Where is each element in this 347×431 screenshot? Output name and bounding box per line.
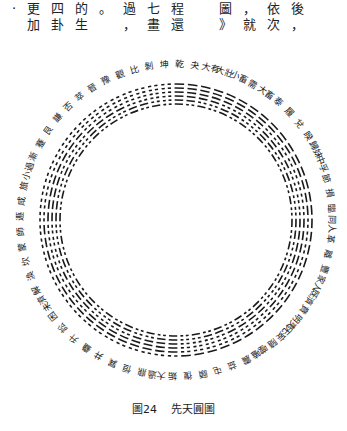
hexagram-label: 蒙: [16, 241, 28, 252]
hexagram-label: 小過: [20, 161, 35, 181]
hexagram-蒙: [41, 236, 62, 248]
hexagram-大過: [155, 335, 166, 356]
hexagram-豐: [285, 252, 307, 267]
hexagram-label: 井: [92, 349, 105, 363]
hexagram-小過: [45, 173, 67, 188]
xiantian-circle-diagram: 乾夬大有大壯小畜需大畜泰履兌睽歸妹中孚節損臨同人革離豐家人既濟賁明夷无妄隨噬嗑震…: [0, 40, 347, 390]
body-text-line-2: 加卦生 ，畫還 》就次，: [12, 17, 315, 32]
hexagram-label: 坎: [19, 256, 32, 268]
hexagram-井: [105, 319, 123, 341]
hexagram-歸妹: [278, 155, 300, 172]
hexagram-label: 臨: [326, 204, 338, 214]
hexagram-師: [40, 224, 61, 234]
hexagram-夬: [186, 85, 197, 106]
hexagram-label: 艮: [42, 124, 55, 137]
hexagram-革: [291, 230, 312, 241]
hexagram-label: 咸: [15, 196, 27, 206]
hexagram-剝: [148, 85, 160, 106]
hexagram-label: 剝: [144, 60, 155, 72]
hexagram-遯: [40, 212, 60, 222]
hexagram-中孚: [283, 167, 305, 183]
hexagram-label: 頤: [197, 368, 208, 379]
hexagram-復: [180, 335, 190, 356]
hexagram-label: 升: [67, 331, 80, 344]
hexagram-益: [214, 327, 230, 349]
hexagram-觀: [123, 91, 139, 113]
hexagram-解: [52, 268, 74, 285]
hexagram-豫: [111, 96, 128, 118]
hexagram-label: 姤: [168, 371, 177, 382]
hexagram-履: [257, 123, 278, 143]
hexagram-label: 晉: [86, 82, 99, 95]
hexagram-label: 履: [282, 106, 295, 119]
figure-number: 圖24: [132, 403, 157, 416]
figure-caption: 圖24先天圓圖: [0, 400, 347, 416]
hexagram-label: 中孚: [314, 153, 331, 174]
hexagram-渙: [47, 258, 69, 274]
body-text-line-1: ·更四的。過七程 圖，依後: [12, 1, 315, 16]
hexagram-label: 漸: [27, 151, 40, 163]
hexagram-label: 既濟: [303, 287, 321, 308]
hexagram-家人: [280, 263, 302, 279]
hexagram-label: 未濟: [34, 293, 53, 314]
hexagram-label: 復: [183, 370, 193, 382]
hexagram-小畜: [219, 94, 235, 116]
hexagram-label: 同人: [327, 215, 337, 233]
hexagram-label: 師: [14, 227, 26, 237]
hexagram-label: 萃: [73, 90, 86, 103]
hexagram-大壯: [208, 89, 223, 111]
hexagram-label: 節: [320, 172, 333, 184]
hexagram-乾: [175, 84, 185, 104]
hexagram-label: 震: [240, 353, 253, 366]
hexagram-label: 大過: [147, 369, 166, 382]
hexagram-震: [224, 322, 241, 344]
hexagram-漸: [50, 161, 72, 177]
hexagram-label: 否: [62, 100, 75, 113]
hexagram-巽: [117, 324, 133, 346]
hexagram-咸: [41, 199, 62, 210]
hexagram-同人: [292, 219, 312, 229]
hexagram-坎: [44, 247, 66, 261]
hexagram-蹇: [55, 149, 77, 167]
figure-title: 先天圓圖: [171, 403, 215, 416]
hexagram-旅: [42, 186, 63, 199]
hexagram-label: 謙: [50, 111, 64, 125]
hexagram-label: 益: [226, 359, 238, 373]
hexagram-ring: 乾夬大有大壯小畜需大畜泰履兌睽歸妹中孚節損臨同人革離豐家人既濟賁明夷无妄隨噬嗑震…: [0, 40, 347, 390]
hexagram-label: 乾: [175, 58, 184, 69]
hexagram-label: 恒: [121, 362, 133, 375]
hexagram-无妄: [253, 301, 273, 322]
hexagram-label: 旅: [17, 180, 30, 191]
hexagram-label: 離: [322, 249, 335, 260]
hexagram-節: [287, 179, 309, 193]
hexagram-label: 蹇: [33, 136, 47, 149]
hexagram-label: 渙: [23, 270, 37, 282]
hexagram-label: 遯: [15, 212, 25, 221]
hexagram-大有: [197, 86, 210, 107]
hexagram-label: 革: [325, 234, 337, 244]
hexagram-需: [230, 99, 248, 121]
hexagram-屯: [203, 331, 217, 353]
hexagram-訟: [74, 297, 95, 317]
hexagram-label: 噬嗑: [249, 343, 270, 362]
hexagram-臨: [291, 205, 312, 215]
hexagram-label: 訟: [56, 321, 70, 335]
hexagram-label: 鼎: [136, 366, 147, 378]
body-text: ·更四的。過七程 圖，依後 加卦生 ，畫還 》就次，: [0, 0, 347, 40]
hexagram-label: 巽: [107, 356, 119, 369]
hexagram-損: [290, 192, 311, 204]
hexagram-比: [135, 88, 149, 110]
hexagram-label: 夬: [190, 59, 200, 71]
hexagram-label: 比: [128, 63, 140, 76]
hexagram-label: 坤: [160, 58, 170, 70]
hexagram-label: 損: [324, 188, 336, 199]
hexagram-label: 觀: [114, 67, 126, 81]
hexagram-鼎: [142, 332, 155, 353]
hexagram-坤: [161, 84, 171, 105]
hexagram-label: 屯: [212, 364, 224, 377]
hexagram-label: 蠱: [79, 341, 93, 355]
hexagram-既濟: [275, 274, 297, 292]
hexagram-姤: [168, 336, 178, 356]
hexagram-label: 小畜: [229, 68, 250, 85]
hexagram-離: [288, 241, 309, 254]
